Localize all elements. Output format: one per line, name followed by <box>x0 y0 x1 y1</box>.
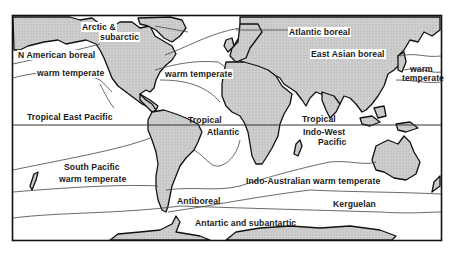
label-n-american-boreal: N American boreal <box>17 50 96 60</box>
label-arctic-line2: subarctic <box>99 32 140 42</box>
label-south-pacific-line2: warm temperate <box>59 174 126 184</box>
label-tropical-indo-west-pacific-line2: Indo-West <box>303 127 345 137</box>
label-warm-temperate-nw-pacific-line2: temperate <box>402 73 444 83</box>
label-warm-temperate-n-atlantic: warm temperate <box>164 69 233 79</box>
label-arctic-line1: Arctic & <box>81 22 117 32</box>
label-east-asian-boreal: East Asian boreal <box>310 49 386 59</box>
label-tropical-indo-west-pacific-line3: Pacific <box>318 137 346 147</box>
label-kerguelan: Kerguelan <box>333 199 376 209</box>
label-tropical-east-pacific: Tropical East Pacific <box>27 112 113 122</box>
label-warm-temperate-ne-pacific: warm temperate <box>36 68 105 78</box>
label-tropical-atlantic-line2: Atlantic <box>207 127 239 137</box>
label-tropical-atlantic-line1: Tropical <box>188 115 222 125</box>
label-tropical-indo-west-pacific-line1: Tropical <box>302 114 336 124</box>
label-indo-australian-warm-temperate: Indo-Australian warm temperate <box>246 176 380 186</box>
label-antiboreal: Antiboreal <box>177 196 221 206</box>
label-antarctic: Antartic and subantartic <box>195 218 296 228</box>
label-south-pacific-line1: South Pacific <box>64 162 120 172</box>
world-map: Arctic & subarctic N American boreal Atl… <box>0 0 453 253</box>
label-atlantic-boreal: Atlantic boreal <box>288 27 351 37</box>
